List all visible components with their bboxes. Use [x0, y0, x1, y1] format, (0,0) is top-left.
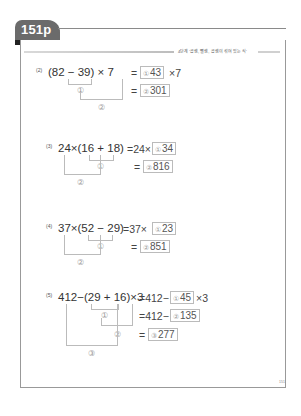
- step-marker: ①: [143, 70, 149, 77]
- section-title: 4단계 '곱셈, 뺄셈, 곱셈이 섞여 있는 식': [178, 48, 247, 54]
- answer-box-1: ①43: [140, 66, 164, 79]
- answer-value: 851: [150, 241, 167, 252]
- answer-box-1: ①34: [152, 142, 176, 155]
- bracket-1: [68, 79, 92, 85]
- equals: =412−: [139, 292, 169, 304]
- bracket-2-riser: [132, 304, 133, 326]
- equals: =24×: [127, 143, 151, 155]
- answer-box-2: ②816: [143, 160, 173, 173]
- answer-value: 45: [180, 292, 191, 303]
- answer-value: 34: [162, 143, 173, 154]
- equals: =37×: [123, 223, 147, 235]
- bracket-2: [64, 155, 101, 175]
- tab-divider: [58, 28, 286, 29]
- expression: 412−(29 + 16)×3: [58, 291, 143, 303]
- bracket-3: [66, 304, 118, 346]
- bracket-label: ②: [77, 258, 84, 267]
- multiplier: ×7: [169, 67, 181, 79]
- step-marker: ①: [155, 226, 161, 233]
- answer-value: 301: [150, 85, 167, 96]
- multiplier: ×3: [196, 292, 208, 304]
- equals: =: [131, 241, 137, 253]
- equals: =: [134, 161, 140, 173]
- problem-number: (3): [46, 143, 52, 149]
- step-marker: ①: [155, 146, 161, 153]
- step-marker: ②: [173, 313, 179, 320]
- problem-number: (5): [46, 292, 52, 298]
- bracket-2: [80, 92, 123, 100]
- answer-box-1: ①45: [170, 291, 194, 304]
- expression: 24×(16 + 18): [58, 142, 124, 154]
- answer-value: 23: [162, 223, 173, 234]
- equals: =: [139, 329, 145, 341]
- answer-value: 135: [180, 310, 197, 321]
- bracket-label: ③: [88, 349, 95, 358]
- header-bar: [24, 51, 174, 53]
- expression: 37×(52 − 29): [58, 222, 124, 234]
- bracket-label: ②: [77, 178, 84, 187]
- bracket-2-riser: [122, 79, 123, 100]
- expression: (82 − 39) × 7: [48, 66, 114, 78]
- bracket-2: [64, 235, 101, 255]
- step-marker: ②: [143, 88, 149, 95]
- answer-box-3: ③277: [148, 328, 178, 341]
- step-marker: ②: [143, 244, 149, 251]
- answer-value: 816: [153, 161, 170, 172]
- header-bar-right: [258, 51, 280, 53]
- bracket-label: ②: [98, 103, 105, 112]
- answer-box-1: ①23: [152, 222, 176, 235]
- equals: =: [131, 67, 137, 79]
- page-tab: 151p: [15, 20, 60, 40]
- page-number: 151: [279, 380, 285, 384]
- equals: =412−: [139, 310, 169, 322]
- equals: =: [131, 85, 137, 97]
- step-marker: ②: [146, 164, 152, 171]
- problem-number: (2): [36, 67, 42, 73]
- problem-number: (4): [46, 223, 52, 229]
- step-marker: ①: [173, 295, 179, 302]
- answer-value: 43: [150, 67, 161, 78]
- answer-box-2: ②301: [140, 84, 170, 97]
- answer-box-2: ②851: [140, 240, 170, 253]
- answer-value: 277: [158, 329, 175, 340]
- step-marker: ③: [151, 332, 157, 339]
- answer-box-2: ②135: [170, 309, 200, 322]
